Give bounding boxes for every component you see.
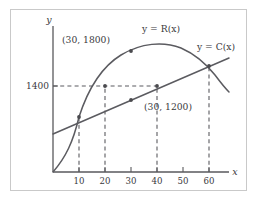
point-marker-c-40-1400 xyxy=(155,84,159,88)
x-tick-label-30: 30 xyxy=(126,176,137,186)
x-tick-marks xyxy=(79,167,209,172)
point-marker-r-20-1400 xyxy=(103,84,107,88)
dashed-guides xyxy=(53,65,209,172)
x-tick-label-20: 20 xyxy=(100,176,111,186)
x-tick-label-50: 50 xyxy=(178,176,189,186)
cost-curve-C xyxy=(53,58,229,134)
annotation-point-c: (30, 1200) xyxy=(144,101,192,112)
point-marker-c-30-1200 xyxy=(129,98,133,102)
revenue-curve-R xyxy=(53,44,229,172)
y-axis-label: y xyxy=(45,14,52,25)
point-marker-intersection-x60 xyxy=(207,64,211,68)
point-marker-r-30-1800 xyxy=(129,49,133,53)
figure-frame: y x 10 20 30 40 50 60 1400 xyxy=(10,9,247,191)
x-axis-label: x xyxy=(232,166,238,177)
x-tick-labels: 10 20 30 40 50 60 xyxy=(74,176,215,186)
point-marker-intersection-x10 xyxy=(77,115,81,119)
annotation-point-r: (30, 1800) xyxy=(62,34,110,45)
x-tick-label-10: 10 xyxy=(74,176,85,186)
y-tick-label-1400: 1400 xyxy=(26,81,49,91)
curve-label-revenue: y = R(x) xyxy=(141,23,180,34)
x-tick-label-60: 60 xyxy=(204,176,215,186)
x-tick-label-40: 40 xyxy=(152,176,163,186)
curve-label-cost: y = C(x) xyxy=(196,41,235,52)
revenue-cost-chart: y x 10 20 30 40 50 60 1400 xyxy=(11,10,246,190)
